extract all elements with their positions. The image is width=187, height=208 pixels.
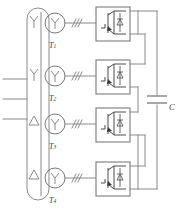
label-T3-sub: 3 bbox=[53, 144, 56, 150]
label-T2-sub: 2 bbox=[53, 96, 56, 102]
T2-primary-wye-symbol bbox=[30, 69, 38, 81]
T4-phase-marks bbox=[72, 174, 82, 182]
transformer-T1 bbox=[30, 13, 96, 33]
T4-secondary-coil bbox=[45, 168, 65, 188]
transformer-T4 bbox=[29, 168, 96, 188]
converter-block-3 bbox=[96, 108, 130, 142]
T1-secondary-coil bbox=[45, 13, 65, 33]
dc-interconnection-rails bbox=[130, 11, 157, 189]
circuit-diagram: T1 T2 T3 T4 C bbox=[0, 0, 187, 208]
label-T1: T1 bbox=[49, 35, 56, 51]
T3-primary-delta-symbol bbox=[29, 116, 39, 125]
label-T4-sub: 4 bbox=[53, 198, 56, 204]
converter-block-1 bbox=[96, 7, 130, 41]
label-capacitor: C bbox=[169, 103, 175, 112]
dc-link-capacitor bbox=[147, 11, 167, 189]
T1-phase-marks bbox=[72, 19, 82, 27]
label-T2: T2 bbox=[49, 88, 56, 104]
label-T3: T3 bbox=[49, 136, 56, 152]
label-T4: T4 bbox=[49, 190, 56, 206]
T3-secondary-coil bbox=[45, 114, 65, 134]
transformer-T3 bbox=[29, 114, 96, 134]
T3-phase-marks bbox=[72, 120, 82, 128]
converter-block-4 bbox=[96, 162, 130, 196]
circuit-schematic-svg bbox=[0, 0, 187, 208]
input-bus bbox=[27, 8, 49, 200]
T4-primary-delta-symbol bbox=[29, 170, 39, 179]
label-T1-sub: 1 bbox=[53, 43, 56, 49]
T1-primary-wye-symbol bbox=[30, 16, 38, 28]
transformer-T2 bbox=[30, 66, 96, 86]
three-phase-input-lines bbox=[3, 79, 27, 119]
converter-block-2 bbox=[96, 60, 130, 94]
T2-phase-marks bbox=[72, 72, 82, 80]
T2-secondary-coil bbox=[45, 66, 65, 86]
